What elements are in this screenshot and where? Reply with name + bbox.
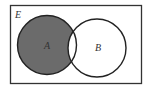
set-a-label: A: [43, 40, 51, 51]
venn-svg: E A B: [0, 0, 149, 90]
venn-diagram: E A B: [0, 0, 149, 90]
universal-set-label: E: [14, 9, 21, 20]
set-b-label: B: [95, 42, 101, 53]
